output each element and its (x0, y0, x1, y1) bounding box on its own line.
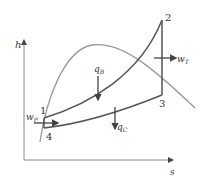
condenser-heat-label: qC (117, 122, 128, 133)
pump-work-label: wP (26, 112, 39, 123)
x-axis-label: s (170, 167, 175, 177)
turbine-work-label: wT (177, 54, 190, 65)
hs-diagram: h s 1 2 3 4 wP qB wT qC (0, 0, 206, 181)
y-axis-label: h (15, 39, 21, 50)
point-2-label: 2 (165, 12, 171, 23)
boiler-heat-label: qB (94, 64, 105, 75)
axes: h s (15, 39, 175, 177)
point-4-label: 4 (46, 131, 52, 142)
energy-arrows (34, 58, 176, 129)
point-1-label: 1 (40, 105, 46, 116)
point-3-label: 3 (159, 98, 165, 109)
